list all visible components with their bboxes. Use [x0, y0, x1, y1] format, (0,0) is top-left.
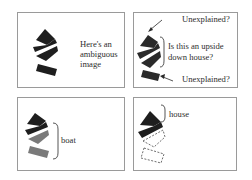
panel-boat: boat — [17, 97, 125, 171]
shape-bottom-bar — [141, 70, 160, 81]
caption-line-2: ambiguous — [80, 49, 118, 60]
panel-house: house — [133, 97, 237, 171]
house-roof — [138, 111, 163, 138]
brace-icon — [161, 105, 165, 122]
brace-icon — [53, 123, 58, 159]
panel-question: Unexplained? Is this an upside down hous… — [133, 12, 238, 88]
shape-top-diamond — [33, 29, 58, 61]
arrow-top-icon — [148, 20, 162, 32]
top-unexplained-label: Unexplained? — [182, 14, 230, 25]
shape-top-piece — [140, 35, 158, 48]
brace-icon — [160, 37, 164, 67]
panel-ambiguous-image: Here's an ambiguous image — [17, 12, 125, 88]
house-label: house — [169, 109, 189, 120]
caption-line-3: image — [80, 59, 101, 70]
question-line-1: Is this an upside — [168, 41, 224, 52]
arrow-bottom-icon — [160, 74, 173, 81]
boat-label: boat — [61, 135, 76, 146]
caption-line-1: Here's an — [80, 39, 112, 50]
bottom-unexplained-label: Unexplained? — [182, 74, 230, 85]
shape-bottom-bar — [36, 64, 57, 76]
boat-bottom-bar — [28, 146, 49, 158]
question-line-2: down house? — [168, 52, 213, 63]
